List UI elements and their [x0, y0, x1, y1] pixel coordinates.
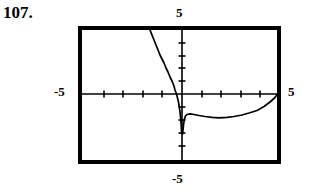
axes-group: [82, 30, 277, 160]
curve-right-branch: [183, 95, 277, 134]
function-curve: [150, 30, 277, 134]
window-label-left: -5: [54, 85, 65, 99]
window-label-top: 5: [176, 6, 183, 20]
window-label-right: 5: [288, 85, 295, 99]
curve-left-branch: [150, 30, 182, 133]
figure-container: 107. 5 -5 -5 5: [0, 0, 309, 192]
calculator-window-frame: [78, 26, 281, 164]
exercise-number-label: 107.: [3, 3, 33, 23]
graph-plot-area: [82, 30, 277, 160]
window-label-bottom: -5: [172, 172, 183, 186]
